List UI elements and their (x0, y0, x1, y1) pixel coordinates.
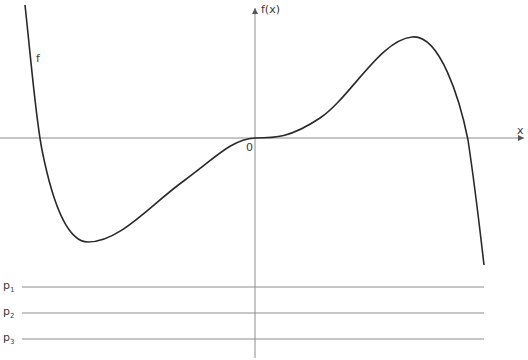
line-p3-label: p3 (3, 332, 14, 346)
x-axis-label: x (517, 125, 524, 136)
graph-canvas (0, 0, 528, 360)
line-p2-label: p2 (3, 306, 14, 320)
y-axis-label: f(x) (261, 4, 280, 15)
line-p1-label: p1 (3, 280, 14, 294)
origin-label: 0 (246, 142, 253, 153)
function-label: f (36, 53, 40, 64)
